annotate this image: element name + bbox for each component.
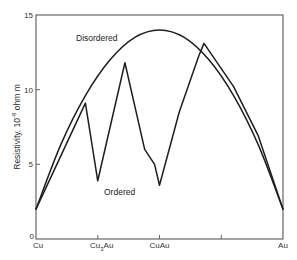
- y-axis-label: Resistivity, 10-8 ohm m: [11, 84, 22, 170]
- y-tick-label-10: 10: [24, 86, 33, 95]
- series-ordered-line: [36, 43, 283, 209]
- annotation-ordered: Ordered: [104, 187, 135, 197]
- y-tick-label-5: 5: [29, 160, 34, 169]
- x-tick-label-au: Au: [278, 241, 288, 250]
- y-axis-label-unit: ohm m: [12, 84, 22, 112]
- x-tick-label-cuau: CuAu: [149, 241, 169, 250]
- x-tick-label-cu3au-tail: Au: [104, 241, 114, 250]
- plot-frame: [36, 15, 283, 239]
- y-tick-label-15: 15: [24, 11, 33, 20]
- x-tick-label-cu3au: Cu3Au: [90, 241, 113, 252]
- resistivity-chart: 15 10 5 0 Resistivity, 10-8 ohm m Cu Cu3…: [0, 0, 297, 260]
- y-tick-label-0: 0: [30, 232, 35, 241]
- x-tick-label-cu3au-main: Cu: [90, 241, 100, 250]
- x-tick-label-cu: Cu: [33, 241, 43, 250]
- x-axis: Cu Cu3Au CuAu Au: [33, 235, 288, 252]
- y-axis-label-main: Resistivity, 10: [12, 118, 22, 170]
- annotation-disordered: Disordered: [76, 33, 118, 43]
